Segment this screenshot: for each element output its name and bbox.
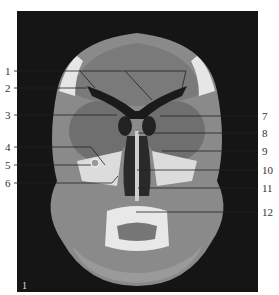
label-10: 10	[262, 165, 273, 176]
label-1: 1	[5, 66, 11, 77]
label-9: 9	[262, 146, 268, 157]
panel-label: 1	[22, 280, 27, 291]
label-5: 5	[5, 160, 11, 171]
label-2: 2	[5, 83, 11, 94]
label-7: 7	[262, 111, 268, 122]
label-3: 3	[5, 110, 11, 121]
label-4: 4	[5, 142, 11, 153]
label-11: 11	[262, 183, 273, 194]
label-6: 6	[5, 178, 11, 189]
leader-lines	[0, 0, 279, 295]
label-12: 12	[262, 207, 273, 218]
label-8: 8	[262, 128, 268, 139]
